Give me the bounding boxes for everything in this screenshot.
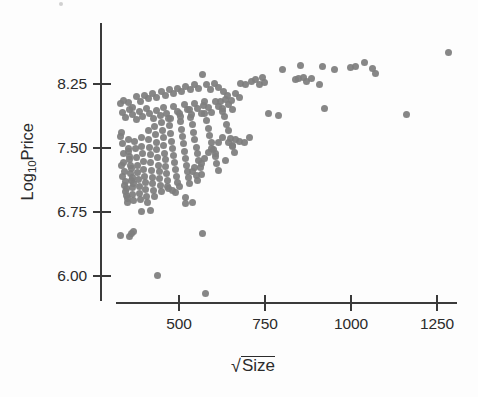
y-axis-tick-label: 8.25 bbox=[27, 75, 87, 93]
scatter-point bbox=[146, 144, 153, 151]
x-axis-line bbox=[116, 302, 457, 304]
y-axis-tick bbox=[93, 83, 111, 85]
scatter-point bbox=[319, 63, 326, 70]
scatter-point bbox=[137, 98, 144, 105]
scatter-point bbox=[308, 75, 315, 82]
scatter-point bbox=[144, 199, 151, 206]
scatter-point bbox=[166, 122, 173, 129]
scatter-point bbox=[403, 111, 410, 118]
scatter-point bbox=[182, 155, 189, 162]
scatter-point bbox=[138, 143, 145, 150]
scatter-point bbox=[202, 290, 209, 297]
scatter-point bbox=[145, 127, 152, 134]
scatter-point bbox=[151, 193, 158, 200]
scatter-point bbox=[261, 79, 268, 86]
x-axis-tick bbox=[264, 295, 266, 311]
scatter-point bbox=[167, 130, 174, 137]
scatter-point bbox=[352, 63, 359, 70]
scatter-point bbox=[138, 134, 145, 141]
scatter-point bbox=[147, 151, 154, 158]
scatter-point bbox=[219, 108, 226, 115]
scatter-point bbox=[205, 125, 212, 132]
scatter-point bbox=[171, 159, 178, 166]
scatter-point bbox=[203, 117, 210, 124]
scatter-point bbox=[231, 149, 238, 156]
scatter-point bbox=[361, 59, 368, 66]
scatter-point bbox=[321, 105, 328, 112]
x-axis-title: √Size bbox=[231, 356, 275, 375]
x-axis-tick bbox=[436, 295, 438, 311]
scatter-point bbox=[229, 143, 236, 150]
x-axis-tick-label: 1000 bbox=[316, 315, 386, 333]
plot-area bbox=[0, 0, 478, 397]
x-axis-tick-label: 750 bbox=[230, 315, 300, 333]
scatter-point bbox=[201, 155, 208, 162]
scatter-point bbox=[186, 180, 193, 187]
scatter-point bbox=[160, 134, 167, 141]
scatter-point bbox=[124, 195, 131, 202]
scatter-point bbox=[154, 272, 161, 279]
scatter-point bbox=[445, 49, 452, 56]
scatter-point bbox=[189, 121, 196, 128]
scatter-point bbox=[158, 119, 165, 126]
scatter-point bbox=[138, 208, 145, 215]
scatter-point bbox=[213, 160, 220, 167]
x-axis-tick bbox=[350, 295, 352, 311]
scatter-point bbox=[199, 230, 206, 237]
scatter-point bbox=[191, 164, 198, 171]
scatter-point bbox=[372, 70, 379, 77]
scatter-point bbox=[331, 66, 338, 73]
scatter-point bbox=[147, 207, 154, 214]
scatter-point bbox=[187, 86, 194, 93]
scatter-point bbox=[159, 127, 166, 134]
scatter-point bbox=[117, 232, 124, 239]
scatter-point bbox=[152, 131, 159, 138]
x-axis-tick bbox=[178, 295, 180, 311]
scatter-point bbox=[206, 132, 213, 139]
scatter-point bbox=[154, 154, 161, 161]
scatter-point bbox=[225, 127, 232, 134]
scatter-point bbox=[191, 136, 198, 143]
scatter-point bbox=[181, 148, 188, 155]
scatter-point bbox=[189, 199, 196, 206]
scatter-point bbox=[160, 142, 167, 149]
scatter-point bbox=[139, 150, 146, 157]
scatter-point bbox=[130, 228, 137, 235]
scatter-point bbox=[246, 134, 253, 141]
scatter-point bbox=[297, 62, 304, 69]
y-axis-title-tail: Price bbox=[18, 123, 36, 161]
x-axis-title-radicand: Size bbox=[241, 356, 275, 375]
y-axis-tick bbox=[93, 147, 111, 149]
radical-sign-icon: √ bbox=[231, 357, 241, 375]
scatter-point bbox=[215, 167, 222, 174]
scatter-point bbox=[150, 115, 157, 122]
scatter-point bbox=[265, 110, 272, 117]
y-axis-title-subscript: 10 bbox=[26, 161, 38, 173]
y-axis-title-base: Log bbox=[18, 173, 36, 201]
scatter-point bbox=[194, 177, 201, 184]
scatter-point bbox=[153, 139, 160, 146]
scatter-point bbox=[168, 138, 175, 145]
scatter-point bbox=[208, 109, 215, 116]
scatter-point bbox=[199, 71, 206, 78]
scatter-point bbox=[275, 112, 282, 119]
x-axis-tick-label: 1250 bbox=[402, 315, 472, 333]
scatter-point bbox=[153, 146, 160, 153]
scatter-point bbox=[151, 123, 158, 130]
scatter-point bbox=[178, 126, 185, 133]
scatter-point bbox=[180, 140, 187, 147]
scatter-point bbox=[158, 188, 165, 195]
scatter-point bbox=[176, 183, 183, 190]
scatter-point bbox=[167, 115, 174, 122]
y-axis-tick-label: 6.00 bbox=[27, 267, 87, 285]
scatter-plot-figure: 6.006.757.508.25 50075010001250 Log10Pri… bbox=[0, 0, 478, 397]
y-axis-title: Log10Price bbox=[18, 92, 38, 232]
scatter-point bbox=[279, 66, 286, 73]
scatter-point bbox=[207, 86, 214, 93]
scatter-point bbox=[236, 94, 243, 101]
y-axis-tick bbox=[93, 211, 111, 213]
scatter-point bbox=[145, 136, 152, 143]
scatter-point bbox=[153, 94, 160, 101]
scatter-point bbox=[148, 167, 155, 174]
x-axis-tick-label: 500 bbox=[144, 315, 214, 333]
